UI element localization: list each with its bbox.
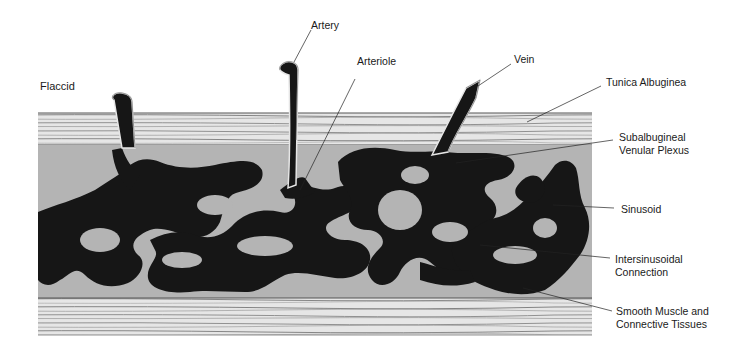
smooth-muscle-band bbox=[38, 298, 592, 335]
label-intersinusoidal-line1: Intersinusoidal bbox=[615, 253, 683, 266]
label-plexus-line2: Venular Plexus bbox=[619, 144, 689, 157]
label-vein: Vein bbox=[514, 53, 534, 66]
label-sinusoid: Sinusoid bbox=[621, 203, 661, 216]
label-intersinusoidal: Intersinusoidal Connection bbox=[615, 253, 683, 279]
flaccid-cavernosal-diagram bbox=[0, 0, 741, 356]
label-subalbugineal-plexus: Subalbugineal Venular Plexus bbox=[619, 131, 689, 157]
label-arteriole: Arteriole bbox=[357, 55, 396, 68]
label-tunica-albuginea: Tunica Albuginea bbox=[606, 76, 686, 89]
label-plexus-line1: Subalbugineal bbox=[619, 131, 689, 144]
title-flaccid: Flaccid bbox=[40, 80, 75, 93]
label-artery: Artery bbox=[311, 19, 339, 32]
label-smooth-line2: Connective Tissues bbox=[616, 318, 709, 331]
label-smooth-muscle: Smooth Muscle and Connective Tissues bbox=[616, 305, 709, 331]
artery-leader bbox=[294, 30, 311, 62]
label-smooth-line1: Smooth Muscle and bbox=[616, 305, 709, 318]
label-intersinusoidal-line2: Connection bbox=[615, 266, 683, 279]
vein-leader bbox=[478, 64, 511, 86]
